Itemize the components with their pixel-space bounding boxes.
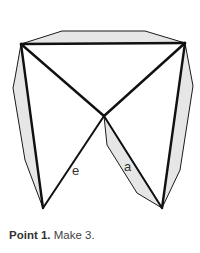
edge-e-line (43, 116, 104, 208)
edge-a-line (104, 116, 162, 208)
label-a: a (124, 159, 132, 174)
label-e: e (72, 163, 79, 178)
diagonal-topleft-to-center (21, 44, 104, 116)
origami-fold-diagram: e a (0, 0, 200, 253)
top-edge-line (21, 43, 185, 44)
diagonal-topright-to-center (104, 43, 185, 116)
step-number: Point 1. (9, 229, 51, 241)
step-instruction: Make 3. (54, 229, 95, 241)
step-caption: Point 1. Make 3. (9, 229, 95, 241)
